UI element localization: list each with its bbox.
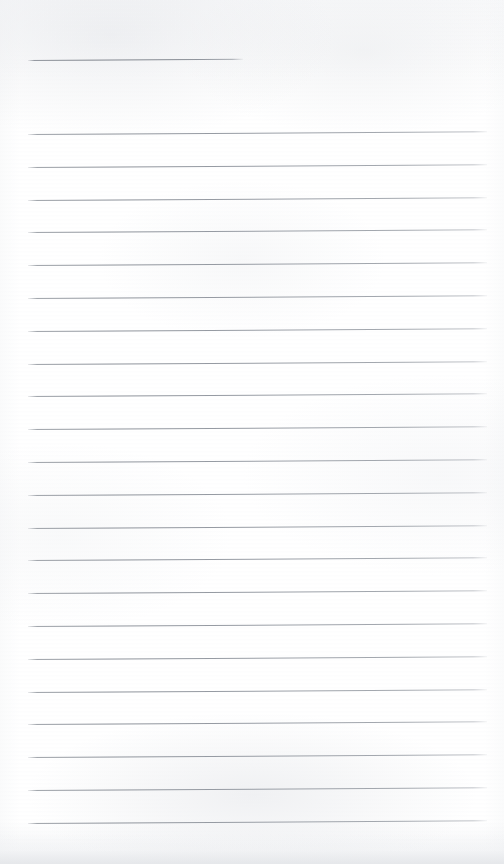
notepad-page xyxy=(0,0,504,864)
writing-area[interactable] xyxy=(28,40,487,840)
